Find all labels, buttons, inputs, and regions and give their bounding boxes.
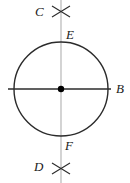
center-point-dot: [58, 86, 64, 92]
construction-diagram: [0, 0, 130, 183]
point-label-d: D: [34, 160, 43, 173]
point-label-f: F: [65, 139, 73, 152]
point-label-c: C: [35, 5, 44, 18]
point-label-b: B: [116, 82, 124, 95]
point-label-e: E: [66, 28, 74, 41]
geometry-figure-canvas: C E B F D: [0, 0, 130, 183]
